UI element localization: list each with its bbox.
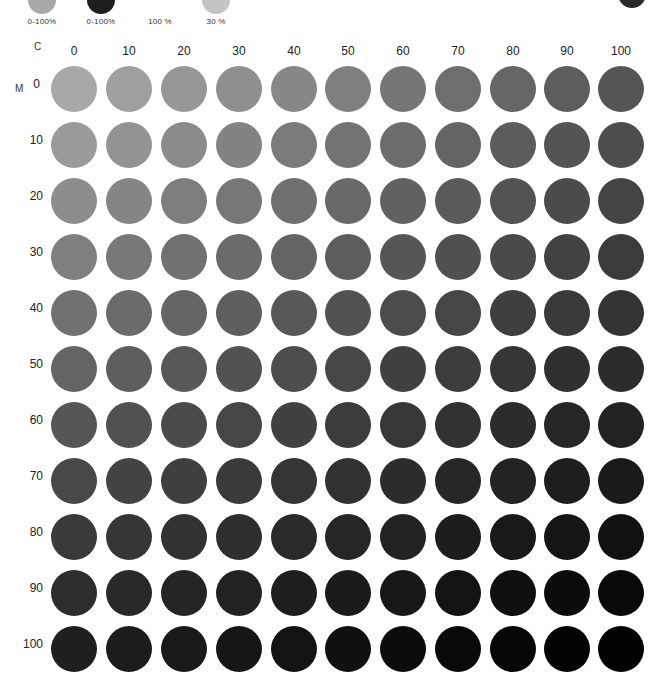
legend-label: 0-100% (87, 17, 116, 26)
tone-swatch-c30-m20 (216, 178, 262, 224)
tone-swatch-c40-m0 (271, 66, 317, 112)
tone-swatch-c20-m40 (161, 290, 207, 336)
tone-swatch-c20-m80 (161, 514, 207, 560)
tone-swatch-c60-m30 (380, 234, 426, 280)
legend-label: 30 % (206, 17, 225, 26)
tone-swatch-c10-m60 (106, 402, 152, 448)
tone-swatch-c50-m70 (325, 458, 371, 504)
corner-swatch (618, 0, 646, 8)
x-axis-label-c: C (34, 41, 41, 52)
tone-swatch-c80-m80 (490, 514, 536, 560)
tone-swatch-c10-m90 (106, 570, 152, 616)
tone-swatch-c100-m70 (598, 458, 644, 504)
tone-swatch-c0-m20 (51, 178, 97, 224)
tone-swatch-c60-m60 (380, 402, 426, 448)
y-tick-label: 0 (33, 77, 40, 91)
x-tick-label: 0 (71, 44, 78, 58)
tone-swatch-c80-m30 (490, 234, 536, 280)
tone-swatch-c80-m50 (490, 346, 536, 392)
tone-swatch-c30-m30 (216, 234, 262, 280)
tone-swatch-c0-m10 (51, 122, 97, 168)
tone-swatch-c100-m60 (598, 402, 644, 448)
tone-swatch-c50-m10 (325, 122, 371, 168)
tone-swatch-c80-m40 (490, 290, 536, 336)
tone-swatch-c90-m0 (544, 66, 590, 112)
tone-swatch-c10-m80 (106, 514, 152, 560)
tone-swatch-c70-m100 (435, 626, 481, 672)
tone-swatch-c50-m50 (325, 346, 371, 392)
tone-swatch-c20-m50 (161, 346, 207, 392)
tone-swatch-c100-m80 (598, 514, 644, 560)
tone-swatch-c30-m60 (216, 402, 262, 448)
legend-swatch (28, 0, 56, 14)
tone-swatch-c30-m40 (216, 290, 262, 336)
tone-swatch-c20-m20 (161, 178, 207, 224)
tone-swatch-c60-m80 (380, 514, 426, 560)
tone-swatch-c100-m10 (598, 122, 644, 168)
tone-swatch-c70-m80 (435, 514, 481, 560)
x-tick-label: 40 (287, 44, 300, 58)
tone-swatch-c0-m30 (51, 234, 97, 280)
tone-swatch-c20-m100 (161, 626, 207, 672)
x-tick-label: 60 (396, 44, 409, 58)
tone-swatch-c20-m10 (161, 122, 207, 168)
tone-swatch-c30-m90 (216, 570, 262, 616)
tone-swatch-c0-m80 (51, 514, 97, 560)
tone-swatch-c0-m40 (51, 290, 97, 336)
y-tick-label: 70 (30, 469, 43, 483)
tone-swatch-c50-m60 (325, 402, 371, 448)
tone-swatch-c60-m10 (380, 122, 426, 168)
tone-swatch-c40-m70 (271, 458, 317, 504)
tone-swatch-c10-m10 (106, 122, 152, 168)
y-tick-label: 50 (30, 357, 43, 371)
tone-swatch-c10-m30 (106, 234, 152, 280)
tone-swatch-c80-m10 (490, 122, 536, 168)
tone-swatch-c80-m70 (490, 458, 536, 504)
tone-swatch-c50-m90 (325, 570, 371, 616)
tone-swatch-c90-m70 (544, 458, 590, 504)
legend-swatch (87, 0, 115, 14)
tone-swatch-c60-m50 (380, 346, 426, 392)
x-tick-label: 30 (232, 44, 245, 58)
tone-swatch-c100-m20 (598, 178, 644, 224)
y-tick-label: 90 (30, 581, 43, 595)
tone-swatch-c60-m0 (380, 66, 426, 112)
legend-label: 100 % (148, 17, 172, 26)
tone-swatch-c70-m90 (435, 570, 481, 616)
tone-swatch-c0-m0 (51, 66, 97, 112)
tone-swatch-c20-m30 (161, 234, 207, 280)
tone-swatch-c10-m40 (106, 290, 152, 336)
y-tick-label: 60 (30, 413, 43, 427)
tone-swatch-c90-m60 (544, 402, 590, 448)
tone-swatch-c90-m30 (544, 234, 590, 280)
tone-swatch-c30-m10 (216, 122, 262, 168)
tone-swatch-c90-m100 (544, 626, 590, 672)
y-tick-label: 80 (30, 525, 43, 539)
tone-swatch-c50-m40 (325, 290, 371, 336)
tone-swatch-c70-m60 (435, 402, 481, 448)
tone-swatch-c70-m30 (435, 234, 481, 280)
tone-swatch-c100-m0 (598, 66, 644, 112)
y-tick-label: 40 (30, 301, 43, 315)
tone-swatch-c60-m70 (380, 458, 426, 504)
tone-swatch-c70-m0 (435, 66, 481, 112)
tone-swatch-c90-m10 (544, 122, 590, 168)
tone-swatch-c0-m50 (51, 346, 97, 392)
tone-swatch-c40-m100 (271, 626, 317, 672)
tone-swatch-c20-m60 (161, 402, 207, 448)
tone-swatch-c10-m0 (106, 66, 152, 112)
tone-swatch-c70-m70 (435, 458, 481, 504)
x-tick-label: 90 (560, 44, 573, 58)
tone-swatch-c40-m60 (271, 402, 317, 448)
y-tick-label: 30 (30, 245, 43, 259)
tone-swatch-c0-m90 (51, 570, 97, 616)
tone-swatch-c30-m100 (216, 626, 262, 672)
tone-swatch-c40-m90 (271, 570, 317, 616)
tone-swatch-c50-m80 (325, 514, 371, 560)
tone-swatch-c50-m30 (325, 234, 371, 280)
tone-swatch-c90-m80 (544, 514, 590, 560)
tone-swatch-c40-m10 (271, 122, 317, 168)
tone-swatch-c40-m30 (271, 234, 317, 280)
y-tick-label: 20 (30, 189, 43, 203)
tone-swatch-c70-m10 (435, 122, 481, 168)
